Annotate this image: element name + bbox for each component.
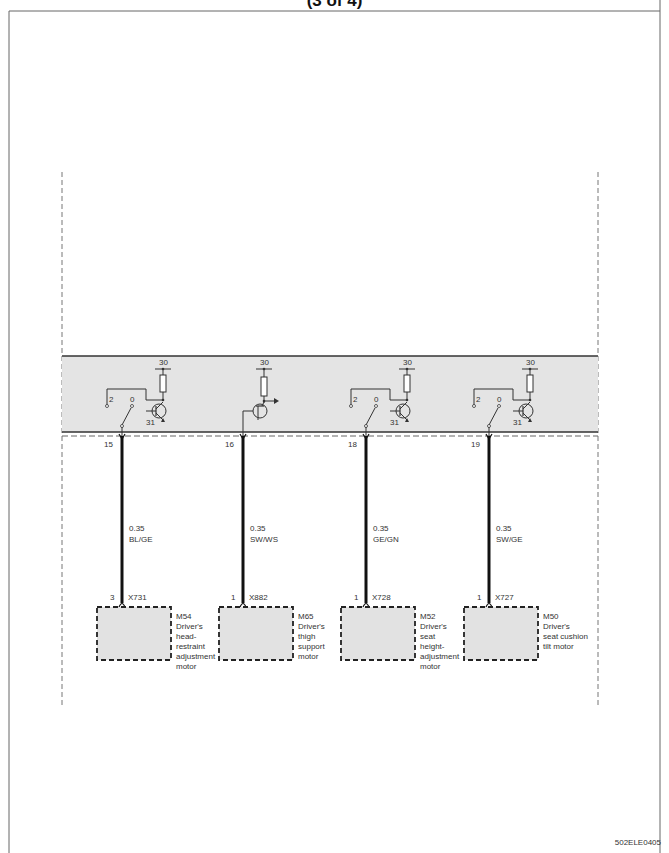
connector-id-label: X882 <box>249 593 268 603</box>
wire-color-label: BL/GE <box>129 535 153 545</box>
wire-color-label: SW/GE <box>496 535 523 545</box>
component-id-label: M65 <box>298 612 314 622</box>
component-desc-line: Driver's <box>543 622 570 632</box>
connector-pin-label: 1 <box>477 593 481 603</box>
resistor-icon <box>404 375 410 392</box>
switch-position-label: 0 <box>497 395 501 404</box>
switch-contact-2 <box>350 405 353 408</box>
component-id-label: M52 <box>420 612 436 622</box>
component-desc-line: adjustment <box>176 652 215 662</box>
component-desc-line: adjustment <box>420 652 459 662</box>
wire-color-label: SW/WS <box>250 535 278 545</box>
component-id-label: M54 <box>176 612 192 622</box>
connector-id-label: X728 <box>372 593 391 603</box>
component-box-M54 <box>97 607 171 660</box>
switch-contact-0 <box>131 405 134 408</box>
component-desc-line: tilt motor <box>543 642 574 652</box>
component-desc-line: Driver's <box>176 622 203 632</box>
component-desc-line: motor <box>298 652 318 662</box>
switch-contact-0 <box>498 405 501 408</box>
connector-pin-label: 1 <box>231 593 235 603</box>
component-box-M65 <box>219 607 293 660</box>
resistor-icon <box>160 375 166 392</box>
ground-terminal-label: 31 <box>390 418 399 427</box>
supply-terminal-label: 30 <box>403 358 412 367</box>
module-pin-label: 19 <box>471 440 480 450</box>
module-pin-label: 16 <box>225 440 234 450</box>
component-desc-line: Driver's <box>420 622 447 632</box>
component-desc-line: support <box>298 642 325 652</box>
wiring-diagram <box>0 0 669 853</box>
supply-terminal-label: 30 <box>159 358 168 367</box>
switch-position-label: 0 <box>130 395 134 404</box>
component-desc-line: seat cushion <box>543 632 588 642</box>
component-box-M52 <box>341 607 415 660</box>
module-pin-label: 15 <box>104 440 113 450</box>
component-desc-line: thigh <box>298 632 315 642</box>
component-desc-line: motor <box>420 662 440 672</box>
switch-position-label: 2 <box>476 395 480 404</box>
component-id-label: M50 <box>543 612 559 622</box>
wire-gauge-label: 0.35 <box>129 524 145 534</box>
switch-contact-0 <box>375 405 378 408</box>
wire-gauge-label: 0.35 <box>250 524 266 534</box>
drawing-code: 502ELE0405 <box>615 838 661 847</box>
switch-position-label: 2 <box>109 395 113 404</box>
wire-gauge-label: 0.35 <box>496 524 512 534</box>
resistor-icon <box>527 375 533 392</box>
switch-position-label: 2 <box>353 395 357 404</box>
module-pin-label: 18 <box>348 440 357 450</box>
component-desc-line: restraint <box>176 642 205 652</box>
connector-pin-label: 1 <box>354 593 358 603</box>
component-desc-line: seat <box>420 632 435 642</box>
wire-color-label: GE/GN <box>373 535 399 545</box>
supply-terminal-label: 30 <box>526 358 535 367</box>
connector-id-label: X727 <box>495 593 514 603</box>
connector-id-label: X731 <box>128 593 147 603</box>
ground-terminal-label: 31 <box>146 418 155 427</box>
component-desc-line: head- <box>176 632 196 642</box>
component-desc-line: height- <box>420 642 444 652</box>
supply-terminal-label: 30 <box>260 358 269 367</box>
wire-gauge-label: 0.35 <box>373 524 389 534</box>
switch-position-label: 0 <box>374 395 378 404</box>
ground-terminal-label: 31 <box>513 418 522 427</box>
component-box-M50 <box>464 607 538 660</box>
connector-pin-label: 3 <box>110 593 114 603</box>
component-desc-line: motor <box>176 662 196 672</box>
resistor-icon <box>261 377 267 396</box>
component-desc-line: Driver's <box>298 622 325 632</box>
switch-contact-2 <box>473 405 476 408</box>
switch-contact-2 <box>106 405 109 408</box>
